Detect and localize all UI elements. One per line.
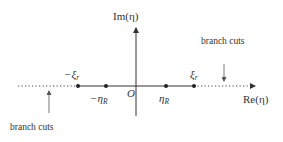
label-eta-R: ηR bbox=[159, 92, 169, 106]
point-eta-R bbox=[164, 84, 168, 88]
label-neg-xi-r: −ξr bbox=[64, 68, 79, 82]
imaginary-axis-label: Im(η) bbox=[113, 10, 139, 23]
origin-label: O bbox=[127, 87, 135, 99]
label-neg-eta-R: −ηR bbox=[90, 92, 108, 106]
branch-cuts-label-right: branch cuts bbox=[201, 36, 245, 46]
point-neg-eta-R bbox=[104, 84, 108, 88]
label-xi-r: ξr bbox=[190, 68, 198, 82]
real-axis-label: Re(η) bbox=[243, 93, 269, 106]
point-neg-xi-r bbox=[76, 84, 80, 88]
branch-cut-diagram: Im(η) Re(η) O −ξr −ηR ηR ξr branch cuts … bbox=[0, 0, 283, 142]
point-xi-r bbox=[192, 84, 196, 88]
branch-cuts-label-left: branch cuts bbox=[10, 122, 54, 132]
